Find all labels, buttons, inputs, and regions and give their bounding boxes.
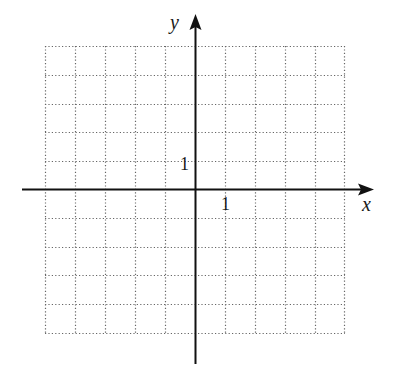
x-axis-label: x	[361, 193, 371, 215]
coordinate-plane: y x 1 1	[0, 0, 394, 375]
x-tick-label: 1	[221, 194, 230, 214]
y-tick-label: 1	[180, 154, 189, 174]
x-axis	[22, 184, 374, 196]
y-axis-label: y	[168, 11, 179, 34]
